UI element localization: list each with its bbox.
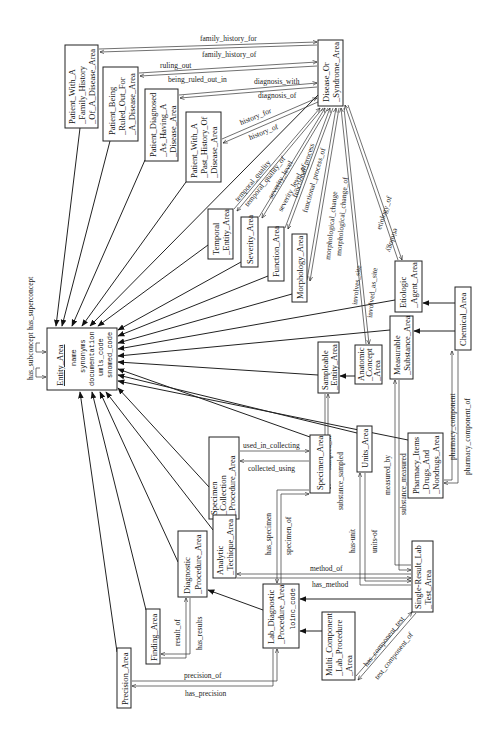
node-text: _Past_History_Of bbox=[199, 116, 209, 179]
node-diagnostic[interactable]: Diagnostic _Procedure_Area bbox=[178, 531, 207, 597]
label-precision-of: precision_of bbox=[184, 671, 222, 680]
label-has-unit: has-unit bbox=[348, 528, 357, 553]
node-text: Patient_Being bbox=[107, 86, 117, 135]
node-text: Diagnostic bbox=[182, 557, 192, 594]
node-finding[interactable]: Finding_Area bbox=[146, 609, 160, 664]
node-lab-diagnostic[interactable]: Lab_Diagnostic _Procedure_Area loinc_cod… bbox=[263, 584, 299, 648]
attr-synonyms: synonyms bbox=[79, 339, 87, 373]
label-method-of: method_of bbox=[310, 564, 343, 573]
node-text: _Drugs_And bbox=[421, 449, 431, 495]
node-disease[interactable]: Disease_Or _Syndrome_Area bbox=[318, 40, 343, 106]
label-used-in-collecting: used_in_collecting bbox=[243, 441, 300, 450]
node-text: _Area bbox=[372, 360, 382, 382]
node-function[interactable]: Function_Area bbox=[268, 226, 284, 281]
label-measured-by: measured_by bbox=[383, 455, 392, 495]
node-text: Severity_Area bbox=[245, 215, 255, 264]
node-entity-area[interactable]: Entity_Area name synonyms documentation … bbox=[47, 328, 117, 390]
node-text: Chemical_Area bbox=[458, 292, 468, 346]
attr-snomed-code: snomed_code bbox=[106, 332, 114, 378]
label-family-history-for: family_history_for bbox=[200, 34, 257, 43]
node-severity[interactable]: Severity_Area bbox=[241, 215, 258, 267]
node-text: Morphology_Area bbox=[295, 236, 305, 299]
label-substance-sampled: substance_sampled bbox=[336, 452, 345, 510]
node-text: _Syndrome_Area bbox=[331, 42, 341, 103]
attr-umls-code: umls_code bbox=[97, 338, 105, 376]
node-precision[interactable]: Precision_Area bbox=[117, 648, 131, 708]
node-text: Units_Area bbox=[360, 429, 370, 468]
label-has-subconcept: has_subconcept bbox=[26, 332, 35, 380]
node-text: _Disease_Area bbox=[209, 126, 219, 179]
label-units-of: units-of bbox=[370, 529, 379, 553]
node-text: _Area bbox=[344, 655, 354, 677]
label-family-history-of: family_history_of bbox=[202, 50, 257, 59]
label-collected-using: collected_using bbox=[248, 464, 295, 473]
label-has-specimen: has_specimen bbox=[264, 513, 273, 555]
node-text: Lab_Diagnostic bbox=[266, 589, 276, 644]
label-involved-as-site: involved_as_site bbox=[365, 266, 379, 318]
node-text: _Test_Area bbox=[423, 570, 433, 610]
node-text: Etiologic bbox=[398, 277, 408, 308]
node-morphology[interactable]: Morphology_Area bbox=[292, 234, 307, 302]
label-substance-measured: substance_measured bbox=[399, 453, 408, 515]
node-anatomic[interactable]: Anatomic _Concept _Area bbox=[355, 345, 382, 384]
node-text: _Agent_Area bbox=[409, 262, 419, 309]
node-text: Patient_Diagnosed bbox=[148, 92, 158, 157]
node-text: _Substance_Area bbox=[402, 315, 412, 376]
node-text: Patient_With_A bbox=[67, 68, 77, 124]
node-text: _As_Having_A bbox=[158, 103, 168, 158]
node-analytic[interactable]: Analytic _Techique_Area bbox=[213, 515, 236, 578]
node-text: Single-Result_Lab bbox=[413, 545, 423, 609]
node-text: Analytic bbox=[215, 546, 225, 575]
node-specimen[interactable]: Specimen_Area bbox=[310, 435, 330, 493]
node-chemical[interactable]: Chemical_Area bbox=[455, 287, 471, 350]
node-measurable[interactable]: Measurable _Substance_Area bbox=[390, 315, 413, 379]
node-text: _A_Disease_Area bbox=[127, 73, 137, 136]
label-being-ruled-out-in: being_ruled_out_in bbox=[168, 75, 227, 84]
label-pharmacy-component: pharmacy_component bbox=[448, 392, 457, 460]
label-result-of: result_of bbox=[173, 619, 182, 646]
attr-documentation: documentation bbox=[88, 331, 96, 386]
node-text: Finding_Area bbox=[149, 614, 159, 661]
label-has-superconcept: has_superconcept bbox=[26, 276, 35, 330]
label-has-results: has_results bbox=[195, 617, 204, 650]
node-text: Specimen_Area bbox=[315, 435, 325, 490]
label-specimen-of: specimen_of bbox=[284, 516, 293, 555]
node-text: Measurable bbox=[392, 335, 402, 375]
node-specimen-collection[interactable]: Specimen _Collection _Procedure_Area bbox=[209, 437, 239, 519]
node-text: _Procedure_Area bbox=[193, 534, 203, 595]
node-text: Disease_Or bbox=[321, 62, 331, 102]
node-single-result[interactable]: Single-Result_Lab _Test_Area bbox=[412, 541, 433, 612]
node-text: Precision_Area bbox=[120, 652, 130, 705]
node-text: Patient_With_A bbox=[189, 122, 199, 178]
attr-loinc-code: loinc_code bbox=[289, 588, 297, 630]
ontology-diagram: has_subconcept has_superconcept family_h… bbox=[0, 0, 503, 735]
node-sampleable[interactable]: Sampleable _Entity_Area bbox=[318, 342, 339, 393]
node-diagnosed[interactable]: Patient_Diagnosed _As_Having_A _Disease_… bbox=[145, 89, 178, 161]
node-text: _Entity_Area bbox=[329, 344, 339, 391]
label-ruling-out: ruling_out bbox=[160, 61, 192, 70]
node-text: _Of_A_Disease_Area bbox=[87, 49, 97, 125]
label-has-method: has_method bbox=[312, 580, 348, 589]
node-text: _Procedure_Area bbox=[276, 584, 286, 645]
node-text: Pharmacy_Items bbox=[411, 437, 421, 494]
label-diagnosis-with: diagnosis_with bbox=[254, 77, 300, 86]
node-text: Function_Area bbox=[271, 226, 281, 277]
node-etiologic[interactable]: Etiologic _Agent_Area bbox=[395, 261, 422, 312]
node-family-history[interactable]: Patient_With_A _Family_History _Of_A_Dis… bbox=[65, 45, 98, 128]
node-text: _Nondrugs_Area bbox=[431, 435, 441, 495]
attr-name: name bbox=[70, 349, 78, 366]
node-pharmacy[interactable]: Pharmacy_Items _Drugs_And _Nondrugs_Area bbox=[408, 433, 443, 498]
node-text: _Ruled_Out_For bbox=[117, 77, 127, 136]
node-text: _Disease_Area bbox=[168, 105, 178, 158]
node-text: _Family_History bbox=[77, 65, 87, 125]
label-diagnosis-of: diagnosis_of bbox=[258, 91, 297, 100]
node-temporal[interactable]: Temporal _Entity_Area bbox=[208, 209, 233, 259]
label-pharmacy-component-of: pharmacy_component_of bbox=[463, 398, 472, 475]
node-ruled-out[interactable]: Patient_Being _Ruled_Out_For _A_Disease_… bbox=[103, 67, 138, 141]
node-units[interactable]: Units_Area bbox=[357, 426, 372, 472]
node-multi-component[interactable]: Multi_Component _Lab_Procedure _Area bbox=[322, 612, 355, 680]
node-text: _Techique_Area bbox=[225, 519, 235, 576]
node-text: Multi_Component bbox=[324, 613, 334, 676]
node-past-history[interactable]: Patient_With_A _Past_History_Of _Disease… bbox=[186, 112, 221, 182]
node-text: _Lab_Procedure bbox=[334, 620, 344, 677]
